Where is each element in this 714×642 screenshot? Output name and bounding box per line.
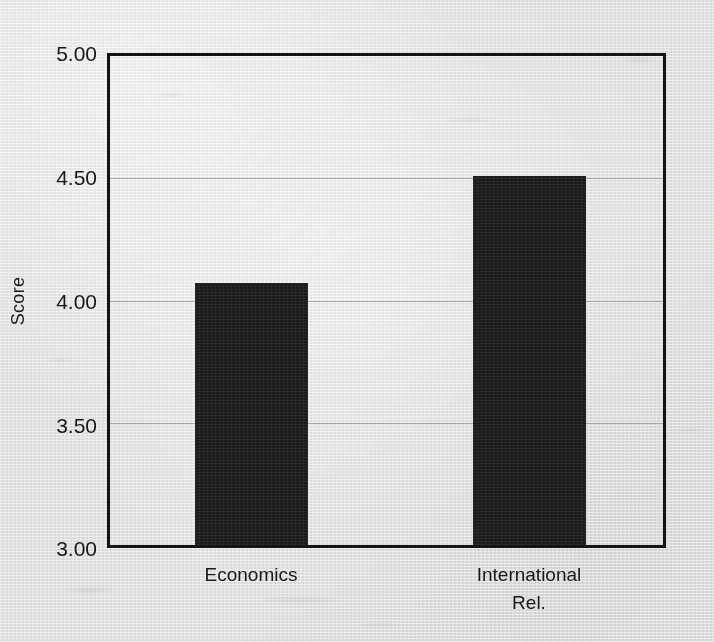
bar-chart-figure: Score 5.00 4.50 4.00 3.50 3.00 Economics…: [0, 0, 714, 642]
y-tick-label-3-00: 3.00: [25, 538, 97, 559]
y-tick-label-4-50: 4.50: [25, 167, 97, 188]
y-axis-tick-labels: 5.00 4.50 4.00 3.50 3.00: [21, 0, 97, 642]
x-tick-label-international-rel: International Rel.: [419, 561, 639, 616]
y-tick-label-5-00: 5.00: [25, 43, 97, 64]
bar-international-rel[interactable]: [473, 176, 586, 545]
bar-economics[interactable]: [195, 283, 308, 545]
x-tick-label-economics: Economics: [141, 561, 361, 589]
y-tick-label-4-00: 4.00: [25, 291, 97, 312]
plot-area: [107, 53, 666, 548]
y-tick-label-3-50: 3.50: [25, 415, 97, 436]
